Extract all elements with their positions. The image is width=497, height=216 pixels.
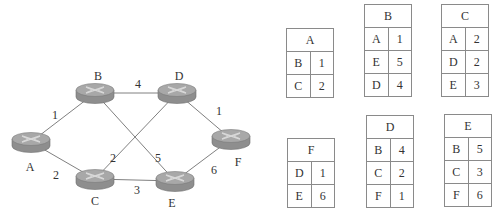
table-row: E6: [288, 185, 335, 208]
table-title: D: [367, 116, 414, 139]
neighbor-cell: B: [445, 138, 469, 161]
router-label-d: D: [175, 70, 184, 82]
link-cost-label: 6: [211, 164, 217, 176]
link-cost-label: 5: [155, 152, 161, 164]
link-cost-label: 1: [52, 109, 58, 121]
neighbor-cell: A: [365, 28, 389, 51]
router-label-e: E: [168, 197, 175, 209]
router-icon: [76, 170, 114, 190]
neighbor-cell: C: [367, 162, 391, 185]
neighbor-cell: C: [287, 75, 311, 98]
cost-cell: 2: [465, 51, 489, 74]
links-layer: [31, 93, 231, 181]
routing-table-f: FD1E6: [287, 138, 335, 208]
neighbor-cell: E: [365, 51, 389, 74]
table-title: B: [365, 5, 412, 28]
table-title: E: [445, 115, 492, 138]
cost-cell: 2: [310, 75, 334, 98]
table-title: C: [442, 5, 489, 28]
cost-cell: 1: [388, 28, 412, 51]
neighbor-cell: F: [367, 185, 391, 208]
cost-cell: 6: [311, 185, 335, 208]
cost-cell: 6: [468, 184, 492, 207]
neighbor-cell: D: [288, 162, 312, 185]
cost-cell: 2: [390, 162, 414, 185]
routing-table-c: CA2D2E3: [441, 4, 489, 97]
router-icon: [156, 172, 194, 192]
neighbor-cell: E: [442, 74, 466, 97]
neighbor-cell: B: [287, 52, 311, 75]
routing-table-b: BA1E5D4: [364, 4, 412, 97]
neighbor-cell: D: [442, 51, 466, 74]
router-icon: [76, 84, 114, 104]
router-icon: [12, 133, 50, 153]
table-row: B1: [287, 52, 334, 75]
neighbor-cell: A: [442, 28, 466, 51]
cost-cell: 4: [390, 139, 414, 162]
cost-cell: 3: [468, 161, 492, 184]
table-row: A1: [365, 28, 412, 51]
table-row: E5: [365, 51, 412, 74]
cost-cell: 1: [311, 162, 335, 185]
table-row: C3: [445, 161, 492, 184]
router-label-f: F: [235, 156, 242, 168]
table-row: C2: [367, 162, 414, 185]
table-row: C2: [287, 75, 334, 98]
table-row: F1: [367, 185, 414, 208]
routing-table-d: DB4C2F1: [366, 115, 414, 208]
neighbor-cell: D: [365, 74, 389, 97]
table-row: D1: [288, 162, 335, 185]
neighbor-cell: F: [445, 184, 469, 207]
table-row: B4: [367, 139, 414, 162]
router-label-a: A: [26, 161, 35, 173]
cost-cell: 4: [388, 74, 412, 97]
router-label-c: C: [91, 195, 99, 207]
neighbor-cell: E: [288, 185, 312, 208]
table-title: F: [288, 139, 335, 162]
link-cost-label: 4: [135, 78, 141, 90]
router-icon: [158, 84, 196, 104]
routing-table-e: EB5C3F6: [444, 114, 492, 207]
table-row: E3: [442, 74, 489, 97]
table-row: B5: [445, 138, 492, 161]
link-cost-label: 2: [53, 169, 59, 181]
cost-cell: 5: [388, 51, 412, 74]
router-label-b: B: [94, 70, 102, 82]
routing-table-a: AB1C2: [286, 28, 334, 98]
table-title: A: [287, 29, 334, 52]
link-cost-label: 3: [134, 184, 140, 196]
cost-cell: 5: [468, 138, 492, 161]
cost-cell: 2: [465, 28, 489, 51]
link-cost-label: 2: [110, 152, 116, 164]
table-row: F6: [445, 184, 492, 207]
neighbor-cell: C: [445, 161, 469, 184]
neighbor-cell: B: [367, 139, 391, 162]
cost-cell: 1: [310, 52, 334, 75]
table-row: A2: [442, 28, 489, 51]
router-icon: [212, 130, 250, 150]
link-cost-label: 1: [216, 105, 222, 117]
table-row: D2: [442, 51, 489, 74]
table-row: D4: [365, 74, 412, 97]
cost-cell: 3: [465, 74, 489, 97]
cost-cell: 1: [390, 185, 414, 208]
